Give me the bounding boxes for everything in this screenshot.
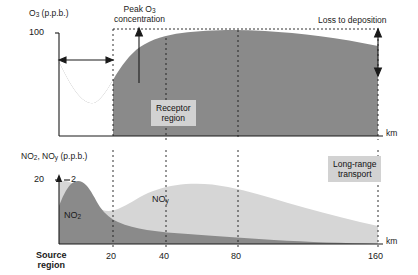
no2-series-label-main: NO — [64, 210, 78, 220]
ozone-depletion-notch — [59, 62, 113, 136]
long-range-transport-box-line1: Long-range — [333, 159, 376, 169]
top-y-axis-title-main: O — [29, 8, 36, 18]
pollution-evolution-figure: O3 (p.p.b.) 100 Peak O3 concentration Lo… — [0, 0, 418, 275]
bottom-y-axis-title: NO2, NOy (p.p.b.) — [21, 152, 87, 162]
bottom-y-axis-title-a: NO — [21, 151, 34, 161]
x-axis-origin-line2: region — [38, 260, 66, 270]
bottom-y-axis-title-b: , NO — [37, 151, 54, 161]
x-axis-origin-line1: Source — [36, 250, 67, 260]
bottom-y-axis-arrowhead — [56, 174, 62, 182]
bottom-x-axis-unit-label: km — [386, 237, 397, 247]
ozone-area-group — [59, 30, 378, 136]
top-y-axis-title-unit: (p.p.b.) — [39, 8, 68, 18]
x-axis-tick-label-80: 80 — [231, 251, 241, 261]
no2-series-label-sub: 2 — [78, 213, 82, 220]
peak-ozone-annotation-line2: concentration — [114, 14, 165, 24]
no2-series-label: NO2 — [64, 210, 81, 220]
top-x-axis-unit-label: km — [386, 129, 397, 139]
x-axis-tick-label-20: 20 — [106, 251, 116, 261]
noy-series-label-main: NO — [152, 194, 166, 204]
noy-series-label-sub: y — [166, 197, 169, 204]
top-y-tick-label-100: 100 — [29, 27, 44, 37]
receptor-region-box-line1: Receptor — [156, 103, 191, 113]
long-range-transport-box-line2: transport — [338, 169, 372, 179]
x-axis-origin-label: Source region — [36, 250, 67, 271]
long-range-transport-box: Long-range transport — [328, 156, 381, 182]
x-axis-tick-label-160: 160 — [368, 251, 383, 261]
receptor-region-box: Receptor region — [151, 100, 196, 126]
source-width-double-arrow — [59, 57, 113, 63]
bottom-y-tick-label-2: 2 — [71, 174, 76, 184]
peak-ozone-annotation: Peak O3 concentration — [114, 5, 165, 24]
receptor-region-box-line2: region — [161, 113, 185, 123]
bottom-y-tick-label-20: 20 — [34, 174, 44, 184]
x-axis-tick-label-40: 40 — [159, 251, 169, 261]
peak-ozone-annotation-main: Peak O — [124, 4, 152, 14]
loss-to-deposition-annotation: Loss to deposition — [318, 16, 387, 26]
bottom-y-axis-title-unit: (p.p.b.) — [58, 151, 87, 161]
noy-series-label: NOy — [152, 194, 169, 204]
top-y-axis-title: O3 (p.p.b.) — [29, 9, 69, 19]
figure-svg — [0, 0, 418, 275]
